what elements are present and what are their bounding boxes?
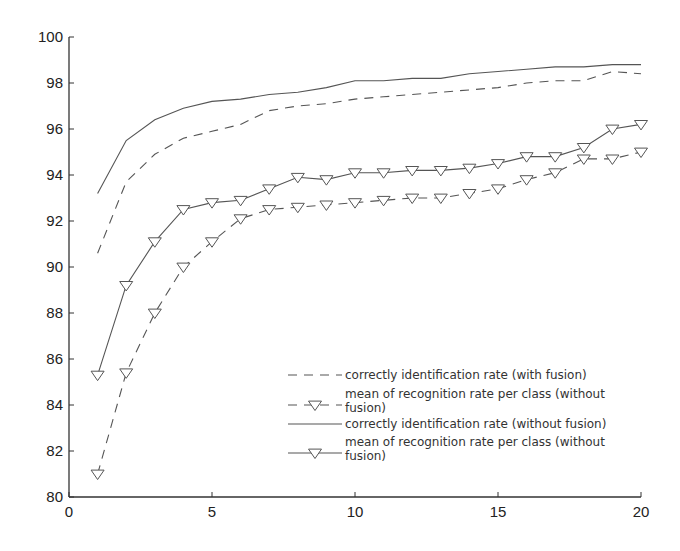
triangle-marker-icon: [377, 169, 390, 178]
triangle-marker-icon: [120, 282, 133, 291]
x-tick-label: 15: [490, 503, 507, 520]
legend-item: correctly identification rate (without f…: [288, 417, 606, 431]
triangle-marker-icon: [549, 153, 562, 162]
triangle-marker-icon: [309, 401, 322, 410]
x-tick-label: 10: [347, 503, 364, 520]
triangle-marker-icon: [320, 201, 333, 210]
y-tick-label: 100: [38, 28, 63, 45]
triangle-marker-icon: [177, 263, 190, 272]
legend-item: mean of recognition rate per class (with…: [288, 435, 605, 463]
series-line: [98, 124, 641, 375]
x-tick-label: 5: [208, 503, 216, 520]
y-tick-label: 92: [46, 212, 63, 229]
y-tick-label: 88: [46, 304, 63, 321]
triangle-marker-icon: [434, 167, 447, 176]
series-0: [98, 72, 641, 254]
legend-label: correctly identification rate (without f…: [345, 417, 606, 431]
y-tick-label: 86: [46, 350, 63, 367]
triangle-marker-icon: [148, 238, 161, 247]
legend-item: mean of recognition rate per class (with…: [288, 387, 605, 415]
y-tick-label: 90: [46, 258, 63, 275]
triangle-marker-icon: [492, 185, 505, 194]
triangle-marker-icon: [577, 155, 590, 164]
triangle-marker-icon: [263, 185, 276, 194]
triangle-marker-icon: [91, 470, 104, 479]
y-tick-label: 98: [46, 74, 63, 91]
legend-label: fusion): [345, 449, 386, 463]
legend-item: correctly identification rate (with fusi…: [288, 368, 587, 382]
triangle-marker-icon: [606, 125, 619, 134]
legend-label: fusion): [345, 401, 386, 415]
triangle-marker-icon: [320, 176, 333, 185]
triangle-marker-icon: [91, 371, 104, 380]
triangle-marker-icon: [606, 155, 619, 164]
legend-label: mean of recognition rate per class (with…: [345, 435, 605, 449]
series-2: [98, 65, 641, 194]
triangle-marker-icon: [177, 206, 190, 215]
y-tick-label: 80: [46, 488, 63, 505]
y-tick-label: 94: [46, 166, 63, 183]
triangle-marker-icon: [577, 144, 590, 153]
triangle-marker-icon: [120, 369, 133, 378]
legend-label: correctly identification rate (with fusi…: [345, 368, 587, 382]
series-line: [98, 72, 641, 254]
y-tick-label: 82: [46, 442, 63, 459]
triangle-marker-icon: [434, 194, 447, 203]
triangle-marker-icon: [520, 176, 533, 185]
y-tick-label: 96: [46, 120, 63, 137]
legend: correctly identification rate (with fusi…: [288, 368, 606, 463]
triangle-marker-icon: [263, 206, 276, 215]
series-3: [91, 121, 647, 381]
y-tick-label: 84: [46, 396, 63, 413]
triangle-marker-icon: [463, 190, 476, 199]
x-tick-label: 0: [65, 503, 73, 520]
triangle-marker-icon: [349, 199, 362, 208]
line-chart: 8082848688909294969810005101520 correctl…: [0, 0, 680, 551]
triangle-marker-icon: [309, 449, 322, 458]
series-line: [98, 65, 641, 194]
x-tick-label: 20: [633, 503, 650, 520]
triangle-marker-icon: [148, 309, 161, 318]
legend-label: mean of recognition rate per class (with…: [345, 387, 605, 401]
